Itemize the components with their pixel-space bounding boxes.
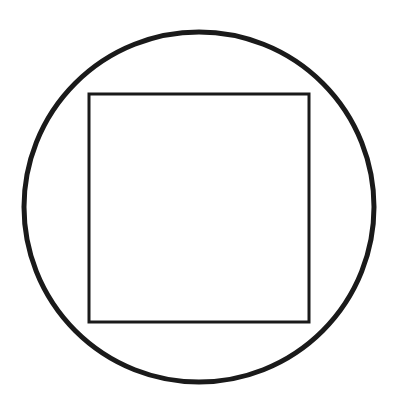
diagram-canvas <box>0 0 394 415</box>
inscribed-square <box>89 94 309 322</box>
outer-circle <box>24 32 374 382</box>
